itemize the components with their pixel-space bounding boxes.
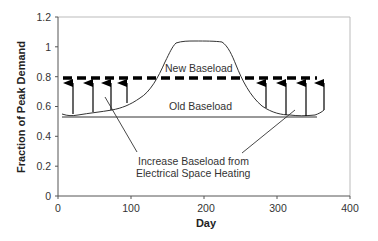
y-tick-0.2: 0.2 [36, 160, 51, 172]
x-tick-300: 300 [269, 202, 287, 214]
y-tick-0: 0 [45, 190, 51, 202]
y-ticks: 0 0.2 0.4 0.6 0.8 1 1.2 [36, 11, 58, 202]
x-ticks: 0 100 200 300 400 [55, 196, 359, 214]
chart-figure: 0 0.2 0.4 0.6 0.8 1 1.2 0 100 200 300 40… [0, 0, 378, 241]
x-tick-400: 400 [341, 202, 359, 214]
callout-line-2: Electrical Space Heating [136, 167, 251, 179]
old-baseload-label: Old Baseload [169, 100, 232, 112]
callout-leader-right [242, 110, 295, 153]
new-baseload-label: New Baseload [165, 62, 233, 74]
y-tick-0.8: 0.8 [36, 71, 51, 83]
x-axis-label: Day [196, 217, 217, 229]
x-tick-200: 200 [197, 202, 215, 214]
callout-line-1: Increase Baseload from [138, 155, 249, 167]
y-tick-1.2: 1.2 [36, 11, 51, 23]
x-tick-0: 0 [55, 202, 61, 214]
callout-leader-left [105, 97, 137, 152]
x-tick-100: 100 [122, 202, 140, 214]
y-axis-label: Fraction of Peak Demand [15, 41, 27, 173]
y-tick-0.6: 0.6 [36, 100, 51, 112]
y-tick-1: 1 [45, 41, 51, 53]
y-tick-0.4: 0.4 [36, 130, 51, 142]
